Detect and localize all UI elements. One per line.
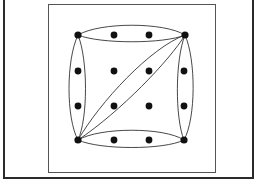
vertex [75, 68, 82, 75]
vertex [181, 31, 188, 38]
hyperedge-anti-diagonal [78, 35, 185, 140]
vertex [146, 68, 153, 75]
vertex [146, 103, 153, 110]
vertex [146, 32, 153, 39]
vertex [75, 103, 82, 110]
hyperedge-bottom-row [78, 130, 184, 147]
vertices [74, 31, 188, 143]
hypergraph-diagram [0, 0, 254, 181]
vertex [181, 68, 188, 75]
vertex [146, 137, 153, 144]
vertex [181, 103, 188, 110]
hyperedge-right-column [177, 35, 193, 140]
vertex [74, 31, 81, 38]
vertex [111, 137, 118, 144]
vertex [111, 32, 118, 39]
vertex [111, 103, 118, 110]
hyperedge-left-column [69, 35, 86, 140]
hyperedge-top-row [78, 25, 185, 42]
vertex [180, 136, 187, 143]
vertex [111, 68, 118, 75]
hyperedges [69, 25, 193, 147]
vertex [74, 136, 81, 143]
